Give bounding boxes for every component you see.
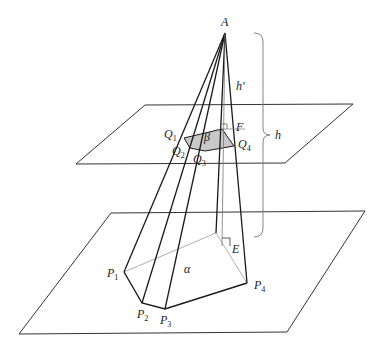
label-q1: Q1 — [164, 127, 177, 143]
label-q2: Q2 — [172, 144, 185, 160]
edge-a-p3 — [165, 33, 225, 309]
label-beta: β — [203, 130, 210, 144]
height-brace — [254, 33, 270, 237]
label-q4: Q4 — [238, 137, 251, 153]
base-polygon-edges — [124, 272, 247, 309]
label-h-prime: h' — [236, 79, 245, 93]
label-f: F — [235, 120, 244, 134]
label-p2: P2 — [136, 307, 148, 323]
label-p3: P3 — [159, 313, 171, 329]
lower-plane — [19, 211, 365, 334]
label-q3: Q3 — [193, 152, 206, 168]
label-p1: P1 — [106, 266, 118, 282]
label-h: h — [275, 128, 281, 142]
label-e: E — [231, 242, 240, 256]
pyramid-diagram: A h' h F E β α Q1 Q2 Q3 Q4 P1 P2 P3 P4 — [0, 0, 383, 345]
right-angle-f — [222, 124, 227, 129]
label-a: A — [220, 15, 229, 29]
label-p4: P4 — [253, 278, 265, 294]
label-alpha: α — [184, 262, 191, 276]
hidden-edge-p5-p4 — [216, 233, 247, 283]
